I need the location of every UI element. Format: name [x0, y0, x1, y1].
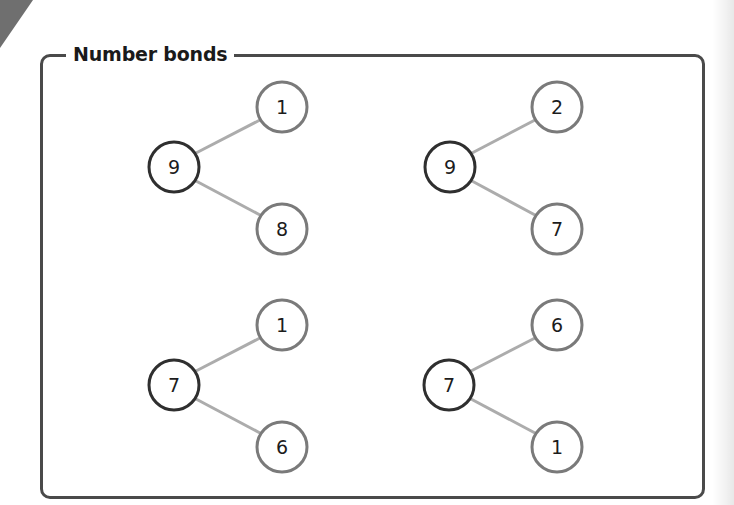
part-circle-top: 1 — [257, 82, 307, 132]
part-value: 6 — [276, 436, 288, 458]
part-value: 1 — [551, 436, 563, 458]
part-circle-bottom: 6 — [257, 422, 307, 472]
connector-line — [196, 338, 260, 371]
whole-circle: 9 — [149, 142, 199, 192]
whole-value: 7 — [443, 374, 455, 396]
number-bond-1: 9 1 8 — [149, 82, 307, 254]
whole-circle: 7 — [424, 360, 474, 410]
connector-line — [196, 120, 260, 153]
number-bond-3: 7 1 6 — [149, 300, 307, 472]
part-value: 7 — [551, 218, 563, 240]
part-value: 6 — [551, 314, 563, 336]
number-bonds-diagram: 9 1 8 9 2 7 7 — [0, 0, 734, 505]
connector-line — [196, 399, 260, 433]
part-value: 2 — [551, 96, 563, 118]
part-circle-top: 1 — [257, 300, 307, 350]
part-value: 8 — [276, 218, 288, 240]
part-value: 1 — [276, 96, 288, 118]
part-value: 1 — [276, 314, 288, 336]
connector-line — [472, 181, 535, 215]
connector-line — [196, 181, 260, 215]
connector-line — [471, 399, 535, 433]
whole-circle: 9 — [425, 142, 475, 192]
part-circle-bottom: 8 — [257, 204, 307, 254]
whole-value: 9 — [168, 156, 180, 178]
part-circle-bottom: 7 — [532, 204, 582, 254]
number-bond-2: 9 2 7 — [425, 82, 582, 254]
part-circle-bottom: 1 — [532, 422, 582, 472]
whole-value: 7 — [168, 374, 180, 396]
whole-value: 9 — [444, 156, 456, 178]
part-circle-top: 6 — [532, 300, 582, 350]
number-bond-4: 7 6 1 — [424, 300, 582, 472]
connector-line — [472, 120, 535, 153]
connector-line — [471, 338, 535, 371]
whole-circle: 7 — [149, 360, 199, 410]
part-circle-top: 2 — [532, 82, 582, 132]
